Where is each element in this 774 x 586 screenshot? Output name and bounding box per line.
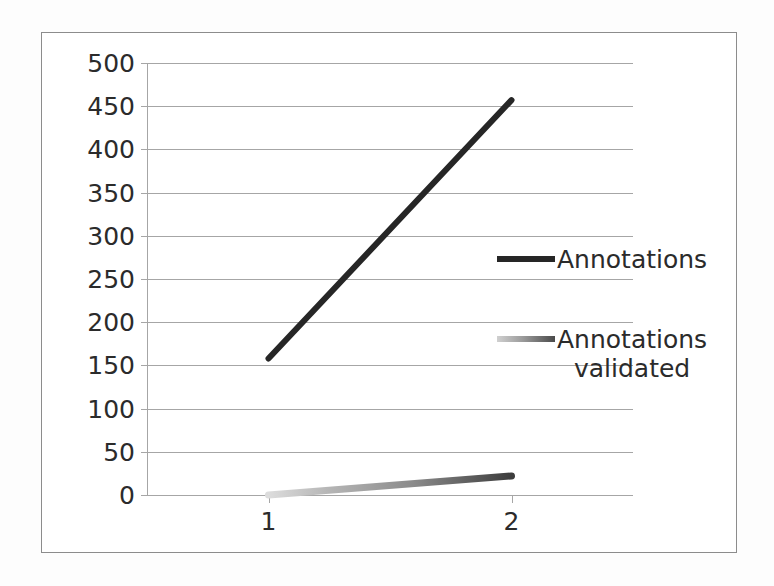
legend-label: Annotations validated	[557, 325, 707, 383]
y-axis-label: 0	[119, 483, 135, 508]
legend-swatch-icon	[497, 256, 555, 262]
y-axis-label: 150	[87, 353, 135, 378]
x-axis-tick	[512, 495, 513, 503]
y-axis-label: 450	[87, 94, 135, 119]
legend-swatch-icon	[497, 336, 555, 342]
y-axis-label: 50	[103, 439, 135, 464]
legend-label: Annotations	[557, 245, 707, 274]
y-axis-label: 200	[87, 310, 135, 335]
gridline	[147, 495, 633, 496]
y-axis-label: 300	[87, 223, 135, 248]
legend-entry-annotations-validated: Annotations validated	[497, 325, 707, 383]
plot-area: 050100150200250300350400450500 12	[147, 63, 633, 495]
chart-frame: 050100150200250300350400450500 12	[41, 32, 737, 553]
y-axis-label: 400	[87, 137, 135, 162]
data-series-layer	[147, 63, 633, 495]
y-axis-label: 100	[87, 396, 135, 421]
legend-entry-annotations: Annotations	[497, 245, 707, 274]
series-line-annotations-validated	[269, 476, 512, 495]
x-axis-label: 1	[261, 509, 277, 534]
x-axis-label: 2	[504, 509, 520, 534]
series-line-annotations	[269, 100, 512, 358]
chart-screenshot: 050100150200250300350400450500 12	[0, 0, 774, 586]
y-axis-label: 500	[87, 51, 135, 76]
y-axis-tick	[141, 495, 147, 496]
y-axis-label: 350	[87, 180, 135, 205]
y-axis-label: 250	[87, 267, 135, 292]
